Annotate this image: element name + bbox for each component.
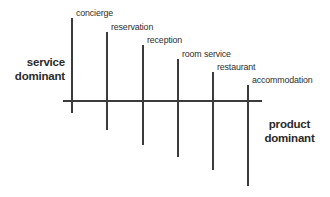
tick-mark-reception [142, 45, 144, 145]
pole-label-product-dominant-line2: dominant [252, 131, 327, 145]
pole-label-product-dominant-line1: product [252, 117, 327, 131]
pole-label-product-dominant: product dominant [252, 117, 327, 145]
pole-label-service-dominant: service dominant [0, 55, 65, 83]
tick-mark-restaurant [212, 72, 214, 170]
tick-label-accommodation: accommodation [252, 74, 313, 85]
horizontal-axis [63, 100, 262, 102]
pole-label-service-dominant-line2: dominant [0, 69, 65, 83]
tick-mark-accommodation [247, 85, 249, 186]
tick-label-reservation: reservation [111, 21, 153, 32]
tick-mark-reservation [106, 32, 108, 130]
tick-label-concierge: concierge [76, 7, 113, 18]
diagram-canvas: concierge reservation reception room ser… [0, 0, 330, 197]
tick-mark-room-service [177, 59, 179, 157]
tick-mark-concierge [71, 18, 73, 113]
tick-label-reception: reception [147, 34, 182, 45]
tick-label-restaurant: restaurant [217, 61, 255, 72]
tick-label-room-service: room service [182, 48, 231, 59]
pole-label-service-dominant-line1: service [0, 55, 65, 69]
